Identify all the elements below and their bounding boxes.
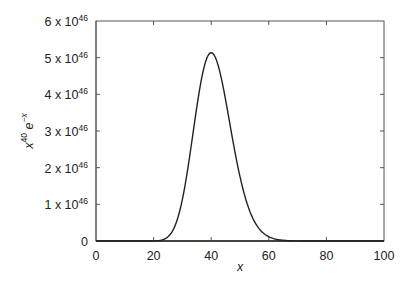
x-axis-label: x xyxy=(236,260,244,274)
chart: 020406080100 01 x 10462 x 10463 x 10464 … xyxy=(0,0,411,283)
y-tick-label: 5 x 1046 xyxy=(44,50,88,66)
y-tick-label: 2 x 1046 xyxy=(44,160,88,176)
data-series-curve xyxy=(96,53,384,241)
y-tick-labels: 01 x 10462 x 10463 x 10464 x 10465 x 104… xyxy=(44,13,88,249)
y-tick-label: 3 x 1046 xyxy=(44,123,88,139)
tick-marks xyxy=(96,21,384,241)
x-tick-label: 40 xyxy=(204,249,218,263)
x-tick-label: 20 xyxy=(147,249,161,263)
y-axis-label: x40 e−x xyxy=(19,113,36,150)
x-tick-labels: 020406080100 xyxy=(93,249,395,263)
y-tick-label: 4 x 1046 xyxy=(44,86,88,102)
y-axis-label-exp2: −x xyxy=(19,113,29,123)
x-tick-label: 80 xyxy=(319,249,333,263)
y-axis-label-exp1: 40 xyxy=(19,133,29,143)
y-tick-label: 1 x 1046 xyxy=(44,196,88,212)
x-tick-label: 60 xyxy=(262,249,276,263)
x-tick-label: 0 xyxy=(93,249,100,263)
y-tick-label: 0 xyxy=(81,235,88,249)
plot-frame xyxy=(96,21,384,241)
y-tick-label: 6 x 1046 xyxy=(44,13,88,29)
y-axis-label-e: e xyxy=(22,122,36,132)
x-tick-label: 100 xyxy=(374,249,395,263)
